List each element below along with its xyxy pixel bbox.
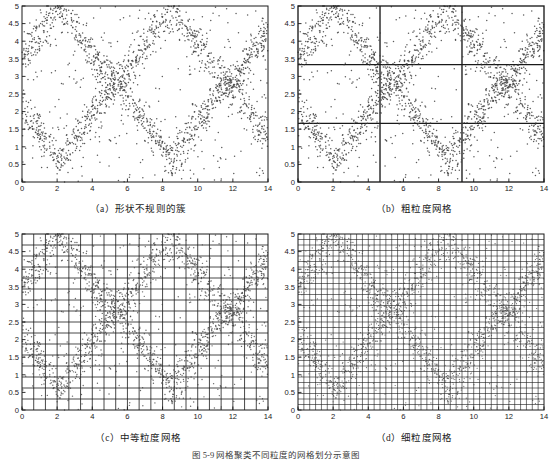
x-tick-label: 4 [90, 184, 94, 193]
x-tick-label: 12 [229, 412, 237, 421]
x-tick-label: 12 [505, 184, 513, 193]
y-tick-label: 1.5 [8, 353, 19, 362]
x-tick-label: 14 [264, 412, 272, 421]
scatter-plot-c: 00.511.522.533.544.5502468101214 [0, 228, 276, 428]
y-tick-label: 0.5 [284, 388, 295, 397]
x-tick-label: 4 [366, 412, 370, 421]
y-tick-label: 0 [15, 406, 19, 415]
y-tick-label: 5 [15, 2, 19, 11]
y-tick-label: 2.5 [8, 90, 19, 99]
panel-d: 00.511.522.533.544.5502468101214 （d）细粒度网… [276, 228, 552, 458]
x-tick-label: 10 [469, 412, 477, 421]
scatter-plot-d: 00.511.522.533.544.5502468101214 [276, 228, 552, 428]
x-tick-label: 2 [331, 184, 335, 193]
panel-b-caption: （b）粗粒度网格 [276, 203, 552, 215]
x-tick-label: 6 [401, 412, 405, 421]
panel-c-caption: （c）中等粒度网格 [0, 432, 276, 444]
x-tick-label: 2 [55, 184, 59, 193]
y-tick-label: 1.5 [8, 125, 19, 134]
y-tick-label: 2 [291, 107, 295, 116]
scatter-plot-b: 00.511.522.533.544.5502468101214 [276, 0, 552, 200]
panel-a-caption: （a）形状不规则的簇 [0, 203, 276, 215]
y-tick-label: 4.5 [284, 19, 295, 28]
y-tick-label: 0.5 [284, 160, 295, 169]
x-tick-label: 12 [229, 184, 237, 193]
panel-c: 00.511.522.533.544.5502468101214 （c）中等粒度… [0, 228, 276, 458]
y-tick-label: 0 [291, 178, 295, 187]
y-tick-label: 0.5 [8, 160, 19, 169]
x-tick-label: 0 [20, 412, 24, 421]
x-tick-label: 0 [296, 412, 300, 421]
x-tick-label: 8 [436, 412, 440, 421]
data-points [297, 5, 544, 183]
x-tick-label: 2 [331, 412, 335, 421]
y-tick-label: 3 [291, 300, 295, 309]
y-tick-label: 3 [15, 72, 19, 81]
y-tick-label: 5 [291, 230, 295, 239]
y-tick-label: 3 [15, 300, 19, 309]
panel-b: 00.511.522.533.544.5502468101214 （b）粗粒度网… [276, 0, 552, 230]
y-tick-label: 2 [291, 335, 295, 344]
x-tick-label: 0 [296, 184, 300, 193]
y-tick-label: 2 [15, 335, 19, 344]
x-tick-label: 8 [436, 184, 440, 193]
plot-area-b: 00.511.522.533.544.5502468101214 [276, 0, 552, 200]
y-tick-label: 1.5 [284, 353, 295, 362]
plot-frame [22, 6, 268, 182]
y-tick-label: 1 [291, 371, 295, 380]
y-tick-label: 3.5 [8, 55, 19, 64]
y-tick-label: 4 [291, 265, 295, 274]
x-tick-label: 4 [366, 184, 370, 193]
x-tick-label: 10 [193, 412, 201, 421]
plot-area-c: 00.511.522.533.544.5502468101214 [0, 228, 276, 428]
y-tick-label: 4 [15, 37, 19, 46]
y-tick-label: 4.5 [8, 247, 19, 256]
x-tick-label: 8 [160, 412, 164, 421]
y-tick-label: 1 [15, 371, 19, 380]
x-tick-label: 10 [469, 184, 477, 193]
y-tick-label: 4 [291, 37, 295, 46]
x-tick-label: 14 [540, 412, 548, 421]
data-points [21, 5, 268, 183]
y-tick-label: 1 [291, 143, 295, 152]
x-tick-label: 0 [20, 184, 24, 193]
x-tick-label: 4 [90, 412, 94, 421]
x-tick-label: 10 [193, 184, 201, 193]
panel-d-caption: （d）细粒度网格 [276, 432, 552, 444]
y-tick-label: 2.5 [284, 318, 295, 327]
y-tick-label: 2 [15, 107, 19, 116]
x-tick-label: 2 [55, 412, 59, 421]
x-tick-label: 8 [160, 184, 164, 193]
grid-lines [298, 6, 544, 182]
x-tick-label: 12 [505, 412, 513, 421]
y-tick-label: 5 [291, 2, 295, 11]
x-tick-label: 6 [125, 184, 129, 193]
y-tick-label: 4.5 [284, 247, 295, 256]
y-tick-label: 3.5 [284, 55, 295, 64]
panel-a: 00.511.522.533.544.5502468101214 （a）形状不规… [0, 0, 276, 230]
y-tick-label: 0.5 [8, 388, 19, 397]
y-tick-label: 3.5 [284, 283, 295, 292]
scatter-plot-a: 00.511.522.533.544.5502468101214 [0, 0, 276, 200]
y-tick-label: 1.5 [284, 125, 295, 134]
x-tick-label: 14 [264, 184, 272, 193]
figure-root: 00.511.522.533.544.5502468101214 （a）形状不规… [0, 0, 552, 460]
y-tick-label: 3 [291, 72, 295, 81]
figure-footer-caption: 图 5-9 网格聚类不同粒度的网格划分示意图 [0, 450, 552, 460]
plot-frame [298, 6, 544, 182]
x-tick-label: 14 [540, 184, 548, 193]
plot-area-d: 00.511.522.533.544.5502468101214 [276, 228, 552, 428]
y-tick-label: 4.5 [8, 19, 19, 28]
grid-lines [22, 234, 268, 410]
plot-area-a: 00.511.522.533.544.5502468101214 [0, 0, 276, 200]
y-tick-label: 5 [15, 230, 19, 239]
y-tick-label: 3.5 [8, 283, 19, 292]
y-tick-label: 4 [15, 265, 19, 274]
y-tick-label: 2.5 [284, 90, 295, 99]
y-tick-label: 0 [15, 178, 19, 187]
x-tick-label: 6 [401, 184, 405, 193]
grid-lines [298, 234, 544, 410]
x-tick-label: 6 [125, 412, 129, 421]
y-tick-label: 2.5 [8, 318, 19, 327]
y-tick-label: 0 [291, 406, 295, 415]
